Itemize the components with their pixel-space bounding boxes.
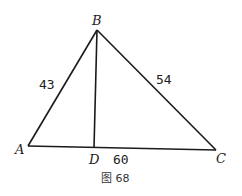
vertex-label-c: C — [216, 151, 226, 166]
vertex-label-d: D — [88, 152, 100, 167]
segment-bd — [94, 30, 97, 148]
length-label-ab: 43 — [39, 77, 55, 92]
triangle-diagram: B A D C 43 54 60 图 68 — [0, 0, 242, 196]
segment-ac — [28, 146, 216, 150]
segment-bc — [97, 30, 216, 150]
vertex-label-b: B — [91, 13, 102, 28]
vertex-label-a: A — [14, 142, 24, 157]
length-label-bc: 54 — [156, 72, 172, 87]
length-label-ac: 60 — [113, 152, 129, 167]
figure-caption: 图 68 — [101, 172, 130, 185]
